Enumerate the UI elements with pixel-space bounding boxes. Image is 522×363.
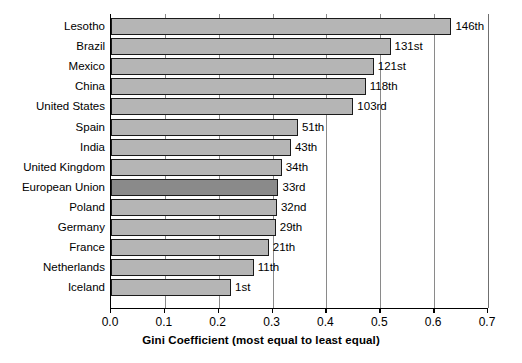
category-label: Lesotho (0, 18, 105, 35)
bar-row (111, 38, 488, 55)
x-tick-mark (325, 308, 326, 313)
category-label: Germany (0, 219, 105, 236)
x-tick-label: 0.2 (198, 315, 238, 329)
x-tick-label: 0.3 (252, 315, 292, 329)
rank-label: 146th (455, 18, 484, 35)
rank-label: 51th (302, 119, 324, 136)
bar-row (111, 259, 488, 276)
x-tick-mark (379, 308, 380, 313)
bar-india (111, 139, 291, 156)
rank-label: 32nd (281, 199, 307, 216)
x-tick-label: 0.4 (305, 315, 345, 329)
rank-label: 29th (280, 219, 302, 236)
category-label: United States (0, 98, 105, 115)
bar-row (111, 98, 488, 115)
x-tick-mark (164, 308, 165, 313)
category-label: Mexico (0, 58, 105, 75)
rank-label: 43th (295, 139, 317, 156)
x-tick-label: 0.0 (90, 315, 130, 329)
x-tick-mark (110, 308, 111, 313)
category-label: United Kingdom (0, 159, 105, 176)
gini-coefficient-bar-chart: LesothoBrazilMexicoChinaUnited StatesSpa… (0, 0, 522, 363)
bar-brazil (111, 38, 391, 55)
x-tick-label: 0.7 (467, 315, 507, 329)
category-label: France (0, 239, 105, 256)
bar-row (111, 279, 488, 296)
category-label: Spain (0, 119, 105, 136)
rank-label: 33rd (282, 179, 305, 196)
category-label: China (0, 78, 105, 95)
category-label: India (0, 139, 105, 156)
x-tick-mark (433, 308, 434, 313)
category-label: Brazil (0, 38, 105, 55)
category-label: Poland (0, 199, 105, 216)
bar-france (111, 239, 269, 256)
bar-netherlands (111, 259, 254, 276)
x-axis-title: Gini Coefficient (most equal to least eq… (0, 334, 522, 346)
rank-label: 11th (258, 259, 280, 276)
rank-label: 1st (235, 279, 250, 296)
bar-european-union (111, 179, 278, 196)
category-label: Netherlands (0, 259, 105, 276)
bar-row (111, 78, 488, 95)
rank-label: 103rd (357, 98, 386, 115)
x-tick-label: 0.5 (359, 315, 399, 329)
bar-poland (111, 199, 277, 216)
category-label: Iceland (0, 279, 105, 296)
bar-row (111, 18, 488, 35)
category-label: European Union (0, 179, 105, 196)
bar-row (111, 119, 488, 136)
x-tick-mark (272, 308, 273, 313)
bar-row (111, 58, 488, 75)
rank-label: 121st (378, 58, 406, 75)
rank-label: 131st (395, 38, 423, 55)
bar-mexico (111, 58, 374, 75)
x-tick-label: 0.1 (144, 315, 184, 329)
bar-germany (111, 219, 276, 236)
bar-united-states (111, 98, 353, 115)
bar-lesotho (111, 18, 451, 35)
rank-label: 34th (286, 159, 308, 176)
plot-right-edge (488, 14, 489, 308)
bar-iceland (111, 279, 231, 296)
bar-united-kingdom (111, 159, 282, 176)
rank-label: 118th (370, 78, 398, 95)
x-tick-mark (487, 308, 488, 313)
bar-china (111, 78, 366, 95)
x-tick-mark (218, 308, 219, 313)
bar-spain (111, 119, 298, 136)
rank-label: 21th (273, 239, 295, 256)
x-tick-label: 0.6 (413, 315, 453, 329)
bar-row (111, 239, 488, 256)
